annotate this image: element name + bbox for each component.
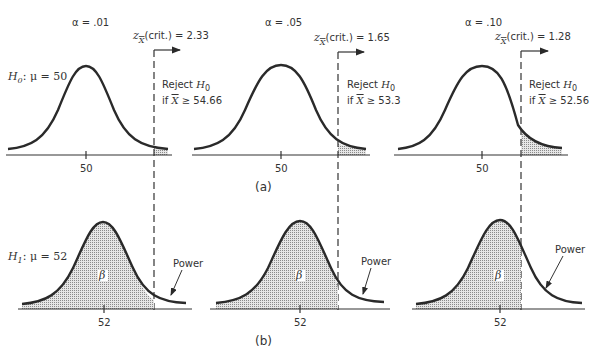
power-label: Power bbox=[173, 258, 204, 269]
beta-label: β bbox=[494, 269, 501, 282]
h0-tick-label: 50 bbox=[80, 163, 93, 174]
power-label: Power bbox=[555, 244, 586, 255]
h1-label: H1: μ = 52 bbox=[7, 250, 67, 265]
h0-tick-label: 50 bbox=[275, 163, 288, 174]
power-arrow bbox=[171, 270, 182, 295]
row-a-caption: (a) bbox=[255, 180, 272, 194]
z-crit-label: zX(crit.) = 1.28 bbox=[494, 30, 571, 46]
row-b-caption: (b) bbox=[255, 334, 272, 348]
reject-condition-text: if X ≥ 53.3 bbox=[347, 95, 401, 106]
alpha-label: α = .05 bbox=[265, 17, 302, 28]
power-arrow bbox=[363, 268, 371, 294]
reject-condition-text: if X ≥ 52.56 bbox=[529, 95, 589, 106]
beta-label: β bbox=[98, 269, 105, 282]
reject-h0-text: Reject H0 bbox=[347, 79, 395, 93]
panel-alpha-01: α = .01 H0: μ = 50 50 zX(crit.) = 2.33 R… bbox=[6, 17, 222, 328]
reject-h0-text: Reject H0 bbox=[162, 79, 210, 93]
h1-tick-label: 52 bbox=[294, 317, 307, 328]
alpha-label: α = .10 bbox=[465, 17, 502, 28]
h1-tick-label: 52 bbox=[494, 317, 507, 328]
beta-region bbox=[216, 221, 338, 309]
alpha-label: α = .01 bbox=[72, 17, 109, 28]
h0-label: H0: μ = 50 bbox=[7, 70, 67, 85]
beta-label: β bbox=[295, 269, 302, 282]
panel-alpha-05: α = .05 50 zX(crit.) = 1.65 Reject H0 if… bbox=[192, 17, 401, 328]
power-label: Power bbox=[361, 256, 392, 267]
z-crit-label: zX(crit.) = 1.65 bbox=[313, 31, 390, 47]
hypothesis-power-diagram: α = .01 H0: μ = 50 50 zX(crit.) = 2.33 R… bbox=[0, 0, 593, 355]
reject-condition-text: if X ≥ 54.66 bbox=[162, 95, 222, 106]
h1-tick-label: 52 bbox=[98, 317, 111, 328]
panel-alpha-10: α = .10 50 zX(crit.) = 1.28 Reject H0 if… bbox=[394, 17, 589, 328]
power-arrow bbox=[546, 256, 563, 288]
reject-h0-text: Reject H0 bbox=[529, 79, 577, 93]
z-crit-label: zX(crit.) = 2.33 bbox=[132, 29, 209, 45]
h0-tick-label: 50 bbox=[476, 163, 489, 174]
h0-curve bbox=[194, 65, 366, 149]
